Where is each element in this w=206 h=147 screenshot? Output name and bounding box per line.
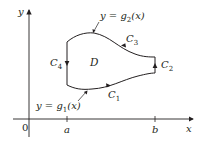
upper-curve-c3	[67, 33, 155, 57]
lower-curve-label: y = g1(x)	[35, 100, 81, 114]
arrow-c2-icon	[153, 63, 158, 68]
arrow-c1-icon	[106, 83, 111, 87]
label-c3: C3	[126, 33, 138, 47]
direction-arrows	[65, 43, 158, 87]
arrow-c4-icon	[65, 61, 70, 66]
leader-g2	[94, 22, 99, 31]
region-boundary	[67, 33, 155, 90]
x-axis-label: x	[186, 123, 192, 134]
region-diagram: y x 0 a b D y = g2(x) y = g1(x) C1 C2 C3…	[0, 0, 206, 147]
lower-curve-c1	[67, 73, 155, 89]
origin-label: 0	[22, 122, 28, 133]
label-c1: C1	[108, 89, 120, 103]
label-c4: C4	[50, 57, 63, 71]
tick-label-a: a	[64, 124, 70, 135]
region-label: D	[89, 56, 99, 68]
y-axis-label: y	[17, 6, 24, 17]
upper-curve-label: y = g2(x)	[99, 10, 145, 24]
tick-label-b: b	[152, 124, 158, 135]
label-c2: C2	[161, 59, 173, 73]
